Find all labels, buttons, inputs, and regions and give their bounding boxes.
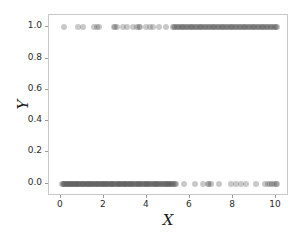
y-tick-label: 0.0 <box>12 177 42 187</box>
data-point <box>174 24 180 30</box>
data-point <box>259 24 265 30</box>
data-point <box>241 24 247 30</box>
data-point <box>247 24 253 30</box>
data-point <box>121 181 127 187</box>
data-point <box>117 181 123 187</box>
data-point <box>192 181 198 187</box>
data-point <box>80 181 86 187</box>
data-point <box>242 24 248 30</box>
data-point <box>163 24 169 30</box>
data-point <box>145 181 151 187</box>
data-point <box>61 24 67 30</box>
data-point <box>249 24 255 30</box>
data-point <box>168 181 174 187</box>
x-tick-label: 6 <box>174 199 204 209</box>
data-point <box>246 24 252 30</box>
data-point <box>269 24 275 30</box>
data-point <box>148 181 154 187</box>
data-point <box>80 24 86 30</box>
data-point <box>256 24 262 30</box>
data-point <box>94 181 100 187</box>
data-point <box>120 24 126 30</box>
data-point <box>227 24 233 30</box>
data-point <box>162 181 168 187</box>
data-point <box>230 24 236 30</box>
x-tick-label: 4 <box>131 199 161 209</box>
data-point <box>223 24 229 30</box>
data-point <box>171 24 177 30</box>
data-point <box>71 181 77 187</box>
data-point <box>63 181 69 187</box>
data-point <box>187 24 193 30</box>
data-point <box>133 181 139 187</box>
data-point <box>92 181 98 187</box>
data-point <box>154 181 160 187</box>
data-point <box>120 181 126 187</box>
data-point <box>64 181 70 187</box>
data-point <box>112 181 118 187</box>
y-tick-label: 0.2 <box>12 145 42 155</box>
x-tick-mark <box>146 195 147 198</box>
data-point <box>111 181 117 187</box>
data-point <box>94 181 100 187</box>
data-point <box>95 181 101 187</box>
data-point <box>80 181 86 187</box>
data-point <box>137 181 143 187</box>
data-point <box>86 181 92 187</box>
data-point <box>200 181 206 187</box>
data-point <box>183 24 189 30</box>
data-point <box>60 181 66 187</box>
data-point <box>212 24 218 30</box>
y-axis-label: Y <box>0 75 113 135</box>
data-point <box>167 181 173 187</box>
data-point <box>83 181 89 187</box>
data-point <box>267 24 273 30</box>
data-point <box>260 24 266 30</box>
data-point <box>159 181 165 187</box>
data-point <box>215 24 221 30</box>
data-point <box>116 181 122 187</box>
data-point <box>75 24 81 30</box>
data-point <box>88 181 94 187</box>
data-point <box>216 181 222 187</box>
data-point <box>114 181 120 187</box>
data-point <box>141 181 147 187</box>
x-tick-label: 10 <box>260 199 290 209</box>
data-point <box>94 24 100 30</box>
data-point <box>157 181 163 187</box>
data-point <box>93 181 99 187</box>
data-point <box>152 181 158 187</box>
data-point <box>211 24 217 30</box>
x-tick-mark <box>275 195 276 198</box>
data-point <box>153 181 159 187</box>
data-point <box>184 24 190 30</box>
data-point <box>147 24 153 30</box>
data-point <box>123 181 129 187</box>
x-tick-mark <box>189 195 190 198</box>
data-point <box>105 181 111 187</box>
data-point <box>156 181 162 187</box>
data-point <box>170 181 176 187</box>
data-point <box>250 24 256 30</box>
data-point <box>206 181 212 187</box>
data-point <box>122 181 128 187</box>
data-point <box>137 24 143 30</box>
data-point <box>143 181 149 187</box>
data-point <box>149 181 155 187</box>
data-point <box>96 181 102 187</box>
data-point <box>273 181 279 187</box>
data-point <box>274 24 280 30</box>
data-point <box>66 181 72 187</box>
data-point <box>173 181 179 187</box>
data-point <box>134 24 140 30</box>
data-point <box>193 24 199 30</box>
data-point <box>205 181 211 187</box>
data-point <box>110 181 116 187</box>
data-point <box>69 181 75 187</box>
data-point <box>229 24 235 30</box>
data-point <box>138 181 144 187</box>
data-point <box>221 24 227 30</box>
data-point <box>219 24 225 30</box>
data-point <box>61 181 67 187</box>
data-point <box>77 181 83 187</box>
